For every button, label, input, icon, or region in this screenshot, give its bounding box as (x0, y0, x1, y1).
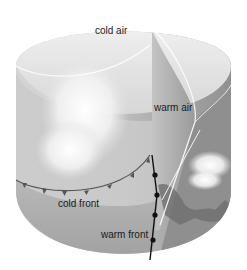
label-cold-air: cold air (95, 26, 127, 36)
label-warm-front: warm front (101, 230, 148, 240)
weather-front-diagram: cold air warm air cold front warm front (0, 0, 247, 270)
label-cold-front: cold front (58, 199, 99, 209)
label-warm-air: warm air (154, 103, 192, 113)
